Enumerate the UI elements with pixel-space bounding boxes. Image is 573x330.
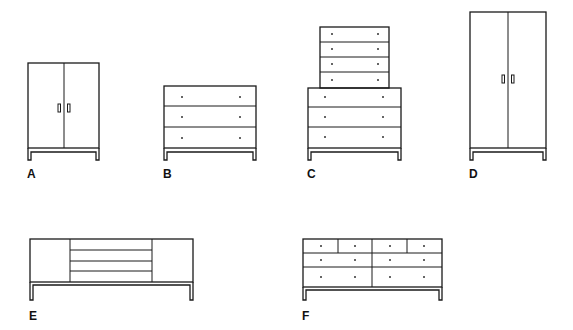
door-handle-icon [502,75,505,83]
furniture-b [164,86,256,160]
label-a: A [27,168,36,180]
furniture-d [470,12,546,160]
furniture-e [30,239,193,300]
furniture-a [28,63,99,160]
door-handle-icon [512,75,515,83]
door-handle-icon [58,104,61,112]
label-d: D [469,168,478,180]
label-e: E [29,310,37,322]
door-handle-icon [68,104,71,112]
furniture-diagram [0,0,573,330]
furniture-c [308,27,401,160]
label-f: F [302,310,309,322]
furniture-f [303,239,442,300]
label-c: C [307,168,316,180]
label-b: B [163,168,172,180]
